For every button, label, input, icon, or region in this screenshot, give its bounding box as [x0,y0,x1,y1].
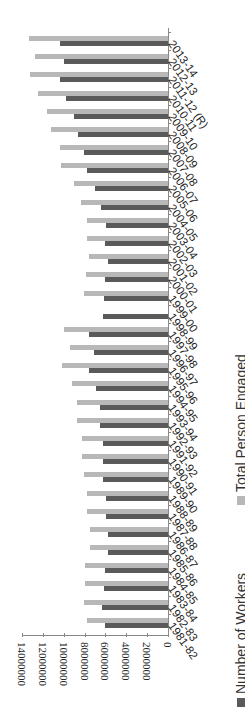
bar-total [82,436,168,441]
bar-workers [108,259,168,264]
bar-total [89,254,168,259]
value-tick [147,633,148,637]
value-tick [22,633,23,637]
bar-workers [103,477,168,482]
value-axis-line [22,635,168,636]
legend-label-workers: Number of Workers [233,573,245,694]
bar-workers [87,168,168,173]
bar-workers [105,568,168,573]
bar-total [87,491,168,496]
bar-workers [106,223,168,228]
bar-total [30,72,168,77]
bar-total [38,91,168,96]
value-tick-label: 4000000 [120,642,132,681]
bar-total [85,563,168,568]
bar-workers [105,241,168,246]
bar-total [87,509,168,514]
bar-total [60,145,168,150]
bar-total [81,200,168,205]
value-tick-label: 6000000 [99,642,111,681]
value-tick [126,633,127,637]
bar-workers [60,41,168,46]
value-tick [105,633,106,637]
bar-workers [104,296,168,301]
bar-workers [60,77,168,82]
bar-workers [106,496,168,501]
bar-workers [103,459,168,464]
bar-workers [74,114,168,119]
bar-total [84,291,168,296]
bar-workers [101,205,168,210]
bar-total [29,36,168,41]
bar-total [85,581,168,586]
legend-workers: Number of Workers [233,573,245,707]
bar-total [87,618,168,623]
bar-workers [94,350,168,355]
bar-total [51,127,168,132]
bar-workers [105,623,168,628]
value-tick [85,633,86,637]
value-tick [43,633,44,637]
bar-total [82,454,168,459]
legend-label-total: Total Person Engaged [233,354,245,492]
value-tick-label: 0 [162,642,174,648]
bar-workers [100,405,168,410]
bar-total [47,109,168,114]
value-tick-label: 14000000 [16,642,28,686]
value-tick-label: 10000000 [58,642,70,686]
bar-total [77,400,168,405]
legend-total: Total Person Engaged [233,354,245,505]
bar-total [86,272,168,277]
bar-total [90,527,168,532]
bar-workers [95,186,168,191]
bar-workers [102,605,168,610]
bar-total [77,418,168,423]
legend-swatch-total [237,496,246,505]
legend-swatch-workers [237,698,246,707]
value-tick-label: 2000000 [141,642,153,681]
bar-workers [105,277,168,282]
bar-workers [103,314,168,319]
bar-workers [66,96,168,101]
bar-workers [78,132,168,137]
bar-total [72,381,168,386]
bar-total [87,236,168,241]
bar-total [62,363,168,368]
bar-workers [84,150,168,155]
bar-total [61,163,168,168]
bar-total [84,600,168,605]
value-tick [168,633,169,637]
bar-total [84,472,168,477]
category-tick [168,32,171,33]
bar-workers [100,423,168,428]
bar-total [87,218,168,223]
bar-total [70,345,168,350]
bar-total [90,545,168,550]
bar-workers [89,332,168,337]
chart: 0200000040000006000000800000010000000120… [0,0,245,720]
bar-workers [108,550,168,555]
bar-workers [104,586,168,591]
bar-workers [103,441,168,446]
bar-total [64,327,168,332]
value-tick [64,633,65,637]
bar-workers [64,59,168,64]
value-tick-label: 12000000 [37,642,49,686]
bar-workers [89,368,168,373]
bar-workers [106,514,168,519]
value-tick-label: 8000000 [79,642,91,681]
bar-workers [96,386,168,391]
bar-total [74,181,168,186]
bar-total [35,54,168,59]
bar-workers [108,532,168,537]
